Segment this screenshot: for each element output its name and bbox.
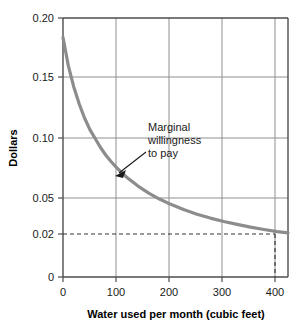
- x-tick-label-100: 100: [107, 286, 125, 298]
- y-tick-label-0.05: 0.05: [33, 192, 54, 204]
- chart-figure: 0.20 0.15 0.10 0.05 0.02 0 0 100 200 300…: [0, 0, 305, 329]
- x-tick-label-200: 200: [160, 286, 178, 298]
- y-tick-label-0.02: 0.02: [33, 228, 54, 240]
- y-tick-label-0.10: 0.10: [33, 132, 54, 144]
- x-tick-label-0: 0: [60, 286, 66, 298]
- x-tick-label-300: 300: [213, 286, 231, 298]
- y-tick-label-0: 0: [48, 271, 54, 283]
- y-tick-label-0.15: 0.15: [33, 71, 54, 83]
- annotation-line-3: to pay: [148, 147, 178, 159]
- y-tick-label-0.20: 0.20: [33, 12, 54, 24]
- y-axis-title: Dollars: [7, 129, 19, 166]
- chart-background: [0, 0, 305, 329]
- annotation-line-2: willingness: [147, 134, 202, 146]
- x-axis-title: Water used per month (cubic feet): [87, 308, 265, 320]
- x-tick-label-400: 400: [266, 286, 284, 298]
- chart-canvas: 0.20 0.15 0.10 0.05 0.02 0 0 100 200 300…: [0, 0, 305, 329]
- annotation-line-1: Marginal: [148, 121, 190, 133]
